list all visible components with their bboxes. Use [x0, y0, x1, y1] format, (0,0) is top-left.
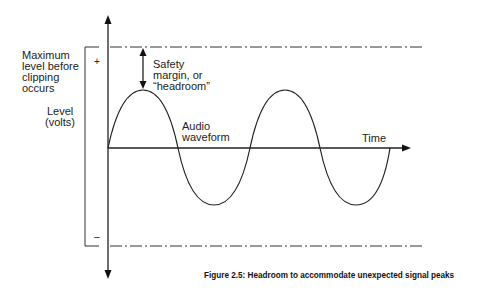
plus-sign: + — [94, 56, 100, 67]
audio-label-line: waveform — [182, 132, 230, 143]
headroom-arrow-up-icon — [140, 48, 147, 56]
audio-waveform-label: Audio waveform — [182, 121, 230, 143]
figure-caption: Figure 2.5: Headroom to accommodate unex… — [204, 269, 454, 280]
level-axis-down-arrow-icon — [105, 270, 112, 279]
max-level-label: Maximum level before clipping occurs — [22, 50, 79, 94]
level-volts-label: Level (volts) — [45, 106, 75, 128]
time-axis-arrow-icon — [402, 145, 411, 152]
max-level-label-line: occurs — [22, 83, 79, 94]
level-label-line: (volts) — [45, 117, 75, 128]
level-range-bracket — [85, 47, 99, 246]
minus-sign: – — [94, 231, 100, 242]
headroom-diagram — [0, 0, 480, 295]
safety-margin-label: Safety margin, or “headroom” — [153, 59, 210, 92]
safety-label-line: “headroom” — [153, 81, 210, 92]
level-axis-up-arrow-icon — [105, 15, 112, 24]
time-label: Time — [362, 133, 386, 144]
headroom-arrow-down-icon — [140, 81, 147, 89]
